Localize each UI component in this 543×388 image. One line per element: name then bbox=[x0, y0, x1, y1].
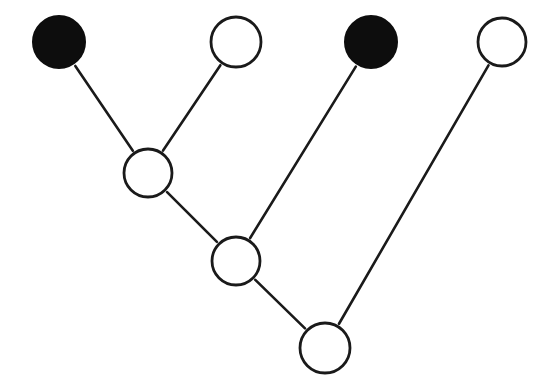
graph-node-leaf-4[interactable] bbox=[478, 18, 526, 66]
graph-node-leaf-2[interactable] bbox=[211, 17, 261, 67]
graph-edge bbox=[250, 67, 356, 238]
graph-edge bbox=[167, 192, 217, 242]
graph-svg bbox=[0, 0, 543, 388]
edges-layer bbox=[75, 65, 488, 328]
graph-node-internal-lower[interactable] bbox=[300, 323, 350, 373]
graph-node-leaf-1[interactable] bbox=[33, 16, 85, 68]
nodes-layer bbox=[33, 16, 526, 373]
graph-edge bbox=[339, 65, 488, 323]
graph-edge bbox=[75, 66, 133, 151]
graph-edge bbox=[163, 65, 220, 150]
graph-node-leaf-3[interactable] bbox=[345, 16, 397, 68]
graph-node-internal-upper[interactable] bbox=[124, 149, 172, 197]
diagram-canvas bbox=[0, 0, 543, 388]
graph-node-internal-middle[interactable] bbox=[212, 237, 260, 285]
graph-edge bbox=[255, 280, 305, 329]
